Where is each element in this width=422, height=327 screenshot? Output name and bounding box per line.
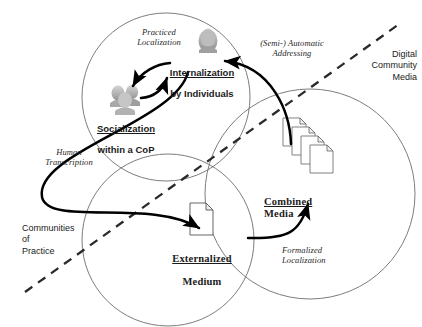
region-label-digital-community-media: Digital Community Media <box>355 49 417 83</box>
circle-externalization <box>82 154 254 326</box>
process-label-formalized-localization: Formalized Localization <box>282 246 362 265</box>
process-label-semi-automatic-addressing: (Semi-) Automatic Addressing <box>241 39 343 58</box>
region-label-communities-of-practice: Communities of Practice <box>22 223 96 257</box>
node-label-externalized-medium-line2: Medium <box>162 276 242 288</box>
node-label-internalization-line1: Internalization <box>165 68 239 79</box>
arrow-socialization-to-internalization <box>141 78 167 98</box>
node-label-internalization: Internalization by Individuals <box>165 57 239 110</box>
node-label-externalized-medium-line1: Externalized <box>162 253 242 265</box>
figure-canvas: Internalization by Individuals Socializa… <box>0 0 422 327</box>
node-label-socialization-line1: Socialization <box>88 124 164 135</box>
node-label-externalized-medium: Externalized Medium <box>162 241 242 300</box>
process-label-human-transcription: Human Transcription <box>31 148 107 167</box>
node-label-combined-media: Combined Media <box>264 184 336 231</box>
document-icon <box>190 203 213 235</box>
process-label-practiced-localization: Practiced Localization <box>120 28 198 47</box>
person-icon <box>199 29 218 53</box>
people-group-icon <box>110 85 140 115</box>
document-stack-icon <box>283 118 333 173</box>
node-label-combined-media-line2: Media <box>264 208 336 220</box>
node-label-internalization-line2: by Individuals <box>165 89 239 100</box>
node-label-combined-media-line1: Combined <box>264 196 312 208</box>
